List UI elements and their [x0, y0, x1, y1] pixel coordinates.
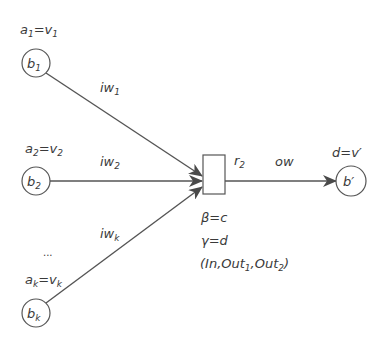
rule-label: r2	[234, 153, 245, 170]
node-bprime-label: b′	[343, 174, 354, 189]
weight-iwk: iwk	[100, 226, 120, 243]
edge-b1-to-rule	[46, 73, 202, 176]
assign-b2: a2=v2	[25, 141, 63, 158]
weight-ow: ow	[275, 154, 294, 169]
assign-bprime: d=v′	[332, 145, 362, 160]
assign-bk: ak=vk	[25, 272, 63, 289]
rule-gamma: γ=d	[201, 233, 229, 248]
ellipsis: ...	[43, 247, 53, 258]
rule-signature: (In,Out1,Out2)	[200, 256, 289, 273]
neural-rule-diagram: b1 b2 bk b′ a1=v1 a2=v2 ... ak=vk d=v′ i…	[0, 0, 391, 349]
weight-iw2: iw2	[100, 154, 120, 171]
edge-bk-to-rule	[46, 187, 202, 303]
assign-b1: a1=v1	[20, 22, 58, 39]
rule-beta: β=c	[200, 210, 227, 225]
rule-box	[203, 155, 225, 194]
weight-iw1: iw1	[100, 80, 120, 97]
